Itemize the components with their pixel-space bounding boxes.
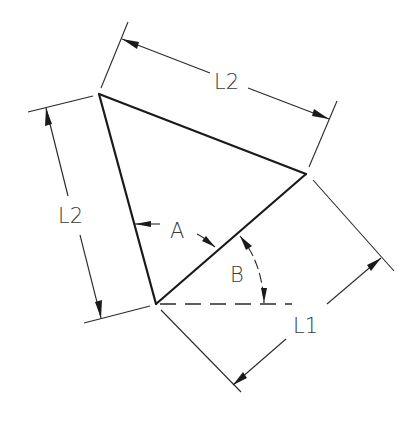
arrowhead-icon <box>261 288 267 303</box>
triangle-edge-top <box>99 94 306 174</box>
dimension-label-top: L2 <box>214 70 239 94</box>
dimension-label-lower-right: L1 <box>293 314 318 338</box>
extension-line <box>101 22 128 88</box>
angle-a-annotation: A <box>135 219 215 247</box>
arrowhead-icon <box>45 108 52 126</box>
arrowhead-icon <box>135 221 151 227</box>
triangle-dimension-diagram: L2 L2 L1 A B <box>0 0 415 422</box>
extension-line <box>28 96 93 112</box>
arrowhead-icon <box>95 300 102 318</box>
extension-line <box>84 306 150 323</box>
extension-line <box>161 310 241 392</box>
angle-b-annotation: B <box>230 236 267 303</box>
dimension-label-left: L2 <box>58 204 83 228</box>
extension-line <box>313 180 394 271</box>
triangle <box>99 94 306 304</box>
dimension-top-l2: L2 <box>101 22 337 167</box>
arrowhead-icon <box>122 39 139 49</box>
angle-label-a: A <box>170 219 184 243</box>
dimension-lower-right-l1: L1 <box>161 180 394 392</box>
arrowhead-icon <box>367 258 381 271</box>
arrowhead-icon <box>312 109 329 119</box>
dimension-left-l2: L2 <box>28 96 150 323</box>
extension-line <box>309 101 337 167</box>
arrowhead-icon <box>240 236 252 250</box>
angle-label-b: B <box>230 263 244 287</box>
triangle-edge-left <box>99 94 156 304</box>
